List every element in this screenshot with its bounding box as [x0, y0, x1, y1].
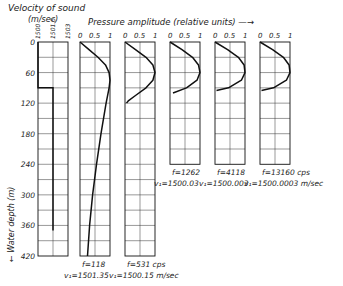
mode-panel-4118: 00.51f=4118v₁=1500.003 [199, 32, 249, 188]
pressure-tick: 1 [153, 32, 157, 40]
frequency-label: f=1262 [172, 168, 200, 177]
frequency-label: f=118 [82, 260, 105, 269]
mode-panel-118: 00.51f=118v₁=1501.35 [64, 32, 112, 280]
velocity-profile-line [38, 42, 53, 231]
depth-tick: 300 [21, 191, 36, 200]
velocity-tick: 1501.5 [49, 18, 56, 39]
pressure-header: Pressure amplitude (relative units) —→ [88, 17, 254, 27]
depth-tick: 60 [25, 69, 35, 78]
mode-panel-531: 00.51f=531 cpsv₁=1500.15 m/sec [109, 32, 179, 280]
pressure-tick: 0 [168, 32, 173, 40]
phase-velocity-label: v₁=1500.03 [154, 179, 199, 188]
normal-modes-figure: Velocity of sound (m/sec) Pressure ampli… [0, 0, 343, 286]
depth-tick: 0 [30, 38, 35, 47]
pressure-tick: 0.5 [179, 32, 191, 40]
pressure-tick: 1 [198, 32, 202, 40]
phase-velocity-label: v₁=1500.0003 m/sec [244, 179, 324, 188]
frequency-label: f=4118 [217, 168, 245, 177]
velocity-panel [38, 42, 68, 256]
pressure-tick: 0.5 [134, 32, 146, 40]
mode-panel-1262: 00.51f=1262v₁=1500.03 [154, 32, 202, 188]
frequency-label: f=531 cps [127, 260, 166, 269]
phase-velocity-label: v₁=1500.003 [199, 179, 249, 188]
depth-axis-ticks: 060120180240300360420 [21, 38, 36, 261]
pressure-tick: 0 [213, 32, 218, 40]
frequency-label: f=13160 cps [262, 168, 310, 177]
pressure-tick: 1 [108, 32, 112, 40]
velocity-tick: 1500 [34, 24, 41, 39]
pressure-tick: 0 [123, 32, 128, 40]
pressure-tick: 0 [258, 32, 263, 40]
velocity-tick: 1503 [64, 24, 71, 39]
phase-velocity-label: v₁=1500.15 m/sec [109, 271, 179, 280]
pressure-tick: 1 [243, 32, 247, 40]
depth-tick: 420 [21, 252, 36, 261]
mode-panels: 00.51f=118v₁=1501.3500.51f=531 cpsv₁=150… [38, 32, 324, 280]
pressure-tick: 0.5 [269, 32, 281, 40]
depth-axis-label: ← Water depth (m) [7, 187, 16, 262]
pressure-tick: 0.5 [89, 32, 101, 40]
depth-tick: 180 [21, 130, 36, 139]
depth-tick: 240 [21, 160, 36, 169]
depth-tick: 120 [21, 99, 36, 108]
phase-velocity-label: v₁=1501.35 [64, 271, 109, 280]
velocity-title: Velocity of sound [8, 3, 85, 13]
pressure-tick: 0.5 [224, 32, 236, 40]
pressure-tick: 1 [288, 32, 292, 40]
depth-tick: 360 [21, 221, 36, 230]
pressure-tick: 0 [78, 32, 83, 40]
mode-panel-13160: 00.51f=13160 cpsv₁=1500.0003 m/sec [244, 32, 324, 188]
